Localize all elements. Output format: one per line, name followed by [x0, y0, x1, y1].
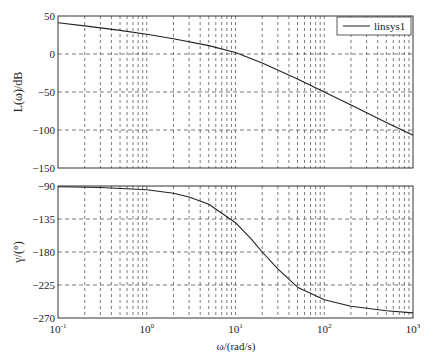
y-tick-label: −150 — [32, 162, 55, 174]
y-tick-label: −180 — [32, 246, 55, 258]
phase-axes: −90−135−180−225−27010-1100101102103 — [32, 180, 420, 335]
y-tick-label: −135 — [32, 213, 55, 225]
x-tick-label: 10-1 — [50, 322, 67, 335]
x-tick-label: 103 — [406, 322, 421, 335]
x-tick-label: 101 — [228, 322, 243, 335]
y-tick-label: −90 — [38, 180, 56, 192]
y-tick-label: −50 — [38, 86, 56, 98]
y-tick-label: −225 — [32, 279, 55, 291]
x-tick-label: 102 — [317, 322, 332, 335]
y-tick-label: 50 — [44, 10, 56, 22]
frequency-axis-label: ω/(rad/s) — [216, 340, 255, 353]
bode-plot-figure: 500−50−100−150 −90−135−180−225−27010-110… — [0, 0, 433, 361]
y-tick-label: −100 — [32, 124, 55, 136]
x-tick-label: 100 — [140, 322, 155, 335]
legend: linsys1 — [337, 17, 411, 35]
y-tick-label: 0 — [50, 48, 56, 60]
phase-axis-label: γ/(°) — [11, 241, 25, 263]
magnitude-axis-label: L(ω)/dB — [11, 72, 25, 113]
legend-label: linsys1 — [374, 20, 405, 32]
